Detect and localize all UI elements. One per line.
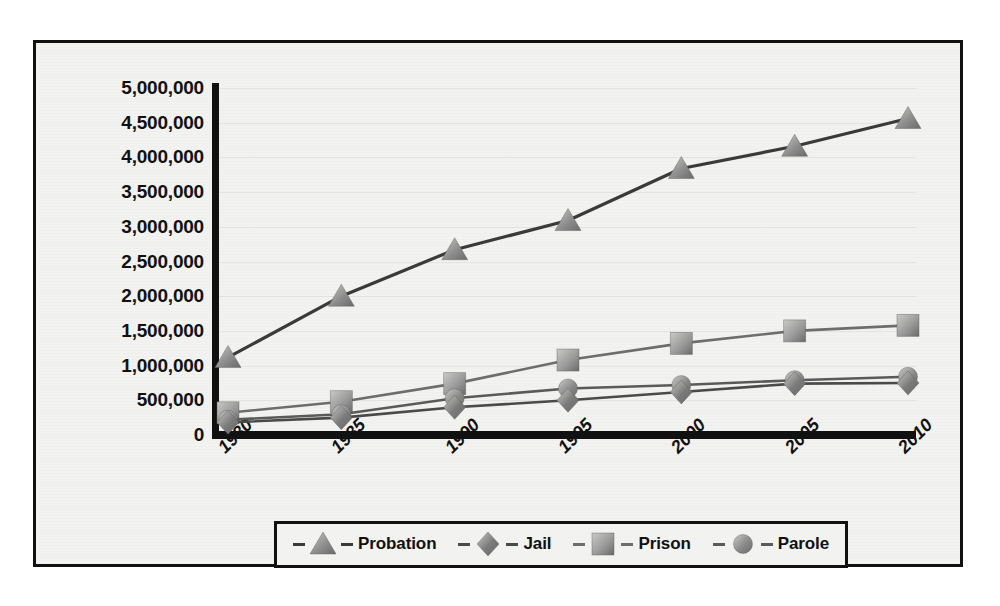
legend-item-jail[interactable]: Jail xyxy=(458,531,551,557)
chart-page: 0500,0001,000,0001,500,0002,000,0002,500… xyxy=(0,0,1000,606)
diamond-marker-icon-shape xyxy=(477,532,499,556)
legend-item-probation[interactable]: Probation xyxy=(293,531,436,557)
circle-marker-icon-shape xyxy=(733,535,752,554)
data-point-probation xyxy=(895,107,921,129)
series-probation xyxy=(215,107,921,368)
legend-label: Probation xyxy=(358,534,436,554)
data-point-prison xyxy=(784,320,806,342)
plot-area: 0500,0001,000,0001,500,0002,000,0002,500… xyxy=(36,43,966,570)
legend-line-dash xyxy=(713,543,725,546)
triangle-marker-icon xyxy=(310,531,336,557)
legend-line-dash xyxy=(293,543,305,546)
legend-item-parole[interactable]: Parole xyxy=(713,531,829,557)
data-point-probation xyxy=(555,209,581,231)
data-point-prison xyxy=(557,349,579,371)
legend-line-dash xyxy=(573,543,585,546)
data-point-prison xyxy=(897,314,919,336)
diamond-marker-icon xyxy=(475,531,501,557)
legend-line-dash xyxy=(506,543,518,546)
chart-frame: 0500,0001,000,0001,500,0002,000,0002,500… xyxy=(33,40,963,567)
data-point-probation xyxy=(328,284,354,306)
legend-line-dash xyxy=(621,543,633,546)
square-marker-icon xyxy=(590,531,616,557)
circle-marker-icon xyxy=(730,531,756,557)
legend-label: Parole xyxy=(778,534,829,554)
legend-line-dash xyxy=(458,543,470,546)
triangle-marker-icon-shape xyxy=(310,532,336,554)
series-group xyxy=(36,43,966,570)
legend-line-dash xyxy=(341,543,353,546)
square-marker-icon-shape xyxy=(592,533,614,555)
data-point-prison xyxy=(670,332,692,354)
legend-item-prison[interactable]: Prison xyxy=(573,531,690,557)
legend-label: Prison xyxy=(638,534,690,554)
legend-label: Jail xyxy=(523,534,551,554)
chart-legend: ProbationJailPrisonParole xyxy=(274,521,848,568)
legend-line-dash xyxy=(761,543,773,546)
data-point-probation xyxy=(215,345,241,367)
